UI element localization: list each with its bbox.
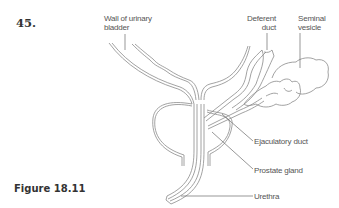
urinary-bladder-wall: [109, 43, 250, 104]
leader-prostate-gland: [212, 132, 253, 169]
deferent-duct: [204, 50, 274, 129]
prostate-gland: [153, 103, 232, 166]
urethra: [166, 104, 204, 204]
prostate-anatomy-diagram: [0, 0, 339, 208]
